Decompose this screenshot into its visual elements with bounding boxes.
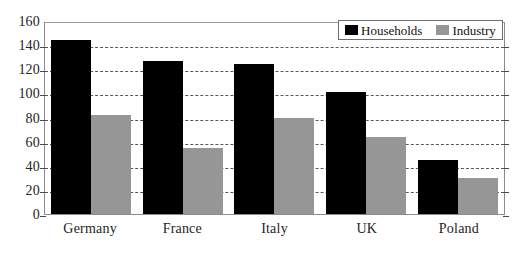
x-axis-tick-label: Italy: [228, 220, 320, 250]
gray-square-icon: [436, 25, 449, 35]
x-axis-tick-label: Germany: [44, 220, 136, 250]
y-axis-tick-right: [503, 216, 509, 217]
plot-area: [44, 22, 505, 215]
bar-group: [229, 23, 321, 214]
y-axis-tick-label: 0: [6, 208, 40, 222]
x-axis-tick-label: Poland: [413, 220, 505, 250]
bar-households-germany: [51, 40, 91, 214]
legend-label: Industry: [452, 24, 495, 37]
x-axis: GermanyFranceItalyUKPoland: [44, 220, 505, 250]
y-axis-tick-label: 40: [6, 160, 40, 174]
bars-container: [45, 23, 504, 214]
bar-households-france: [143, 61, 183, 214]
bar-industry-italy: [274, 118, 314, 215]
black-square-icon: [345, 25, 358, 35]
y-axis-tick-label: 140: [6, 39, 40, 53]
bar-industry-germany: [91, 115, 131, 214]
bar-households-italy: [234, 64, 274, 214]
bar-group: [45, 23, 137, 214]
y-axis-tick-label: 80: [6, 112, 40, 126]
x-axis-tick-label: France: [136, 220, 228, 250]
y-axis-tick: [40, 216, 46, 217]
y-axis-tick-label: 120: [6, 63, 40, 77]
bar-chart: 020406080100120140160 GermanyFranceItaly…: [0, 0, 514, 257]
x-axis-tick-label: UK: [321, 220, 413, 250]
legend-item-households: Households: [345, 24, 422, 37]
bar-industry-uk: [366, 137, 406, 214]
bar-group: [412, 23, 504, 214]
bar-group: [137, 23, 229, 214]
chart-legend: HouseholdsIndustry: [338, 20, 503, 40]
y-axis-tick-label: 160: [6, 15, 40, 29]
bar-households-uk: [326, 92, 366, 214]
legend-item-industry: Industry: [436, 24, 495, 37]
bar-industry-france: [183, 148, 223, 214]
legend-label: Households: [361, 24, 422, 37]
y-axis-tick-label: 100: [6, 87, 40, 101]
bar-households-poland: [418, 160, 458, 214]
bar-group: [320, 23, 412, 214]
y-axis-tick-label: 20: [6, 184, 40, 198]
bar-industry-poland: [458, 178, 498, 214]
y-axis-tick-label: 60: [6, 136, 40, 150]
y-axis: 020406080100120140160: [0, 0, 40, 257]
